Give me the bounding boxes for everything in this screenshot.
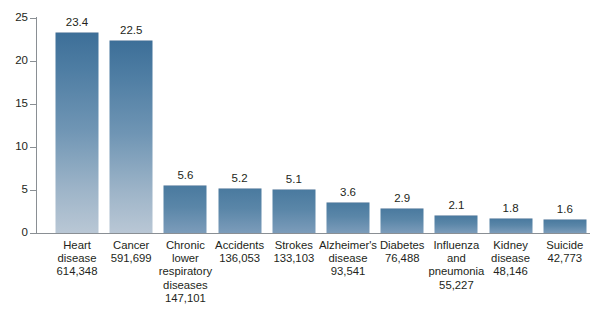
bar-category-label: Suicide42,773 — [528, 239, 596, 265]
bar-value-label: 1.6 — [557, 204, 573, 216]
bar-value-label: 5.2 — [232, 173, 248, 185]
y-axis-tick — [30, 233, 37, 234]
bar-count-label: 42,773 — [528, 252, 596, 265]
bar-value-label: 2.9 — [394, 193, 410, 205]
y-axis-tick-label: 5 — [2, 184, 28, 196]
bar-chart-figure: 0510152025 23.4Heartdisease614,34822.5Ca… — [0, 0, 596, 310]
y-axis-tick — [30, 104, 37, 105]
bar-value-label: 5.6 — [177, 170, 193, 182]
bar — [543, 219, 586, 233]
bar-group: 1.6Suicide42,773 — [525, 0, 596, 310]
y-axis-tick — [30, 18, 37, 19]
y-axis-tick — [30, 190, 37, 191]
bar-category-label-line: Suicide — [528, 239, 596, 252]
bar-value-label: 5.1 — [286, 174, 302, 186]
plot-area: 0510152025 23.4Heartdisease614,34822.5Ca… — [0, 0, 596, 310]
y-axis-tick-label: 0 — [2, 227, 28, 239]
bar-value-label: 1.8 — [503, 203, 519, 215]
bar-value-label: 3.6 — [340, 187, 356, 199]
bar-value-label: 22.5 — [120, 25, 142, 37]
y-axis-tick — [30, 61, 37, 62]
y-axis-tick-label: 15 — [2, 98, 28, 110]
y-axis-tick-label: 25 — [2, 12, 28, 24]
bar-value-label: 2.1 — [448, 200, 464, 212]
y-axis-tick-label: 10 — [2, 141, 28, 153]
y-axis-tick — [30, 147, 37, 148]
y-axis-tick-label: 20 — [2, 55, 28, 67]
bar-value-label: 23.4 — [66, 17, 88, 29]
